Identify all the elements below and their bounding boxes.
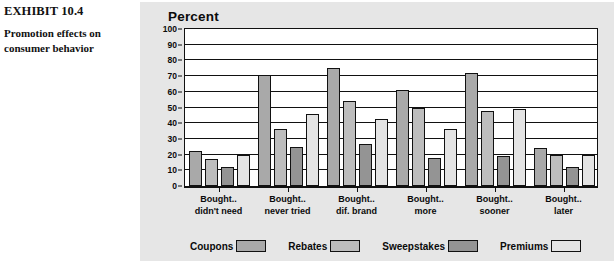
- bar: [205, 159, 219, 186]
- x-axis-tick-mark: [426, 187, 427, 192]
- x-axis-tick-label-line: didn't need: [195, 205, 243, 217]
- x-axis-tick-label-line: later: [545, 205, 582, 217]
- legend-label: Coupons: [190, 241, 233, 252]
- legend-label: Rebates: [288, 241, 327, 252]
- x-axis-tick-mark: [495, 187, 496, 192]
- chart-title: Percent: [168, 9, 219, 24]
- legend-item: Coupons: [190, 240, 266, 252]
- legend-swatch: [551, 240, 581, 252]
- y-axis-tick-mark: [178, 186, 182, 187]
- y-axis-tick-mark: [178, 123, 182, 124]
- legend-label: Sweepstakes: [382, 241, 445, 252]
- y-axis-tick-label: 20: [168, 150, 177, 160]
- bar: [497, 156, 511, 186]
- legend-swatch: [330, 240, 360, 252]
- bar-group: [258, 29, 320, 186]
- x-axis-tick-mark: [288, 187, 289, 192]
- plot-area-wrapper: 0102030405060708090100 Bought..didn't ne…: [158, 28, 602, 206]
- y-axis-tick-mark: [178, 107, 182, 108]
- x-axis-tick-label-line: Bought..: [476, 193, 513, 205]
- x-axis-tick-label-line: Bought..: [264, 193, 310, 205]
- x-axis-tick-label: Bought..later: [545, 193, 582, 217]
- chart-legend: CouponsRebatesSweepstakesPremiums: [190, 240, 581, 252]
- bar: [412, 108, 426, 187]
- bar: [343, 101, 357, 186]
- bar-group: [396, 29, 458, 186]
- bar: [306, 114, 320, 186]
- y-axis-tick-label: 0: [172, 181, 177, 191]
- bar-group: [327, 29, 389, 186]
- y-axis-tick-label: 40: [168, 118, 177, 128]
- y-axis: 0102030405060708090100: [158, 28, 182, 187]
- x-axis-tick-mark: [357, 187, 358, 192]
- legend-item: Sweepstakes: [382, 240, 478, 252]
- bar-group: [465, 29, 527, 186]
- legend-swatch: [236, 240, 266, 252]
- exhibit-title: Promotion effects on consumer behavior: [4, 26, 136, 55]
- x-axis-tick-label-line: more: [407, 205, 444, 217]
- y-axis-tick-mark: [178, 44, 182, 45]
- y-axis-tick-mark: [178, 60, 182, 61]
- x-axis-tick-mark: [564, 187, 565, 192]
- bar: [481, 111, 495, 186]
- x-axis-tick-mark: [219, 187, 220, 192]
- y-axis-tick-label: 80: [168, 55, 177, 65]
- legend-item: Rebates: [288, 240, 360, 252]
- bar: [513, 109, 527, 186]
- y-axis-tick-mark: [178, 170, 182, 171]
- x-axis-tick-label: Bought..dif. brand: [336, 193, 377, 217]
- bar: [375, 119, 389, 187]
- bar: [534, 148, 548, 186]
- legend-swatch: [448, 240, 478, 252]
- y-axis-tick-label: 60: [168, 87, 177, 97]
- y-axis-tick-label: 10: [168, 165, 177, 175]
- y-axis-tick-label: 70: [168, 71, 177, 81]
- bar: [327, 68, 341, 186]
- exhibit-number: EXHIBIT 10.4: [4, 4, 136, 19]
- bar: [428, 158, 442, 186]
- legend-item: Premiums: [500, 240, 581, 252]
- y-axis-tick-mark: [178, 29, 182, 30]
- exhibit-page: EXHIBIT 10.4 Promotion effects on consum…: [0, 0, 614, 264]
- x-axis-tick-label: Bought..more: [407, 193, 444, 217]
- x-axis-tick-label-line: Bought..: [336, 193, 377, 205]
- y-axis-tick-mark: [178, 76, 182, 77]
- bar-group: [534, 29, 596, 186]
- bar: [274, 129, 288, 186]
- x-axis-tick-label: Bought..never tried: [264, 193, 310, 217]
- x-axis-tick-label-line: never tried: [264, 205, 310, 217]
- x-axis-tick-label-line: Bought..: [195, 193, 243, 205]
- x-axis-tick-label-line: Bought..: [407, 193, 444, 205]
- bar: [566, 167, 580, 186]
- plot-area: [184, 28, 598, 187]
- x-axis-tick-label: Bought..didn't need: [195, 193, 243, 217]
- y-axis-tick-mark: [178, 138, 182, 139]
- bar: [221, 167, 235, 186]
- y-axis-tick-label: 90: [168, 40, 177, 50]
- y-axis-tick-label: 50: [168, 103, 177, 113]
- bar: [189, 151, 203, 186]
- bars-layer: [185, 29, 597, 186]
- bar: [465, 73, 479, 186]
- y-axis-tick-label: 100: [163, 24, 177, 34]
- x-axis-tick-label-line: Bought..: [545, 193, 582, 205]
- bar: [359, 144, 373, 186]
- bar: [237, 155, 251, 186]
- bar-group: [189, 29, 251, 186]
- x-axis-tick-label: Bought..sooner: [476, 193, 513, 217]
- bar: [582, 155, 596, 186]
- chart-panel: Percent 0102030405060708090100 Bought..d…: [140, 2, 614, 261]
- bar: [290, 147, 304, 186]
- exhibit-caption: EXHIBIT 10.4 Promotion effects on consum…: [4, 4, 136, 55]
- bar: [258, 75, 272, 186]
- x-axis-line: [184, 186, 598, 188]
- x-axis-labels: Bought..didn't needBought..never triedBo…: [184, 193, 598, 227]
- bar: [444, 129, 458, 186]
- x-axis-tick-label-line: sooner: [476, 205, 513, 217]
- y-axis-tick-label: 30: [168, 134, 177, 144]
- bar: [396, 90, 410, 186]
- bar: [550, 155, 564, 186]
- y-axis-tick-mark: [178, 91, 182, 92]
- y-axis-tick-mark: [178, 154, 182, 155]
- x-axis-tick-label-line: dif. brand: [336, 205, 377, 217]
